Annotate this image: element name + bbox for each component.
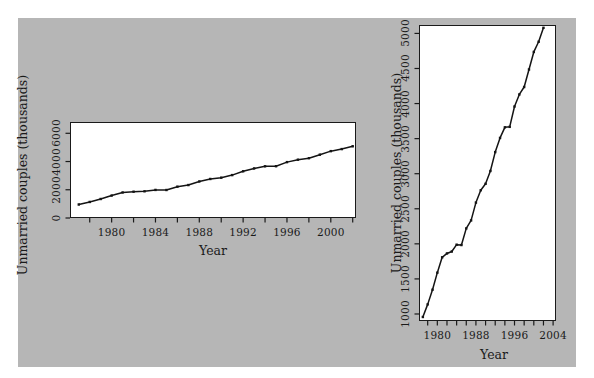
x-tick-label: 1996 — [501, 329, 529, 341]
x-tick-label: 1988 — [186, 226, 214, 238]
x-tick-label: 1984 — [142, 226, 170, 238]
x-tick-label: 2000 — [317, 226, 345, 238]
left-y-axis-title: Unmarried couples (thousands) — [15, 75, 30, 275]
figure-root: 198019841988199219962000 0200040006000 Y… — [0, 0, 594, 378]
x-tick-label: 2004 — [539, 329, 567, 341]
y-tick-label: 6000 — [50, 120, 62, 148]
y-tick-label: 0 — [50, 215, 62, 222]
x-tick-label: 1988 — [462, 329, 490, 341]
x-tick-label: 1980 — [424, 329, 452, 341]
right-x-axis-title: Year — [480, 347, 508, 362]
x-tick-label: 1992 — [229, 226, 257, 238]
y-tick-label: 2000 — [50, 176, 62, 204]
left-x-axis-title: Year — [199, 243, 227, 258]
right-axis-ticks — [419, 25, 556, 321]
right-y-axis-title: Unmarried couples (thousands) — [389, 73, 404, 273]
y-tick-label: 1000 — [399, 300, 411, 328]
y-tick-label: 4000 — [50, 148, 62, 176]
left-axis-ticks — [70, 122, 356, 218]
y-tick-label: 5000 — [399, 20, 411, 48]
x-tick-label: 1980 — [98, 226, 126, 238]
x-tick-label: 1996 — [273, 226, 301, 238]
